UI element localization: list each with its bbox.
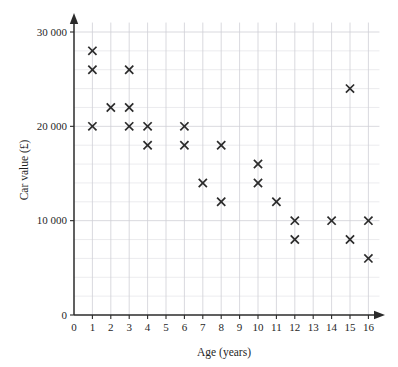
x-axis-arrowhead: [374, 311, 385, 319]
x-tick-label: 5: [163, 321, 169, 333]
x-tick-label: 8: [218, 321, 224, 333]
x-tick-label: 10: [253, 321, 265, 333]
x-tick-label: 1: [90, 321, 96, 333]
y-tick-label: 10 000: [37, 214, 68, 226]
x-tick-label: 7: [200, 321, 206, 333]
x-tick-label: 3: [126, 321, 132, 333]
y-tick-label: 0: [62, 309, 68, 321]
x-tick-label: 4: [145, 321, 151, 333]
plot-canvas: 012345678910111213141516 010 00020 00030…: [0, 0, 398, 367]
minor-gridlines: [74, 51, 379, 296]
x-axis-title: Age (years): [197, 346, 251, 359]
x-tick-label: 12: [289, 321, 300, 333]
x-tick-label: 6: [182, 321, 188, 333]
y-tick-label: 30 000: [37, 26, 68, 38]
x-tick-label: 0: [71, 321, 77, 333]
x-tick-label: 14: [326, 321, 338, 333]
data-point-markers: [88, 47, 372, 263]
tick-marks: [70, 32, 368, 319]
major-gridlines: [74, 23, 379, 315]
axes: [70, 13, 385, 319]
y-axis-tick-labels: 010 00020 00030 000: [37, 26, 68, 321]
x-tick-label: 2: [108, 321, 114, 333]
scatter-plot-figure: 012345678910111213141516 010 00020 00030…: [0, 0, 398, 367]
x-tick-label: 11: [271, 321, 282, 333]
x-tick-label: 16: [363, 321, 375, 333]
x-tick-label: 9: [237, 321, 243, 333]
y-axis-title: Car value (£): [18, 139, 31, 200]
x-axis-tick-labels: 012345678910111213141516: [71, 321, 374, 333]
y-tick-label: 20 000: [37, 120, 68, 132]
x-tick-label: 15: [345, 321, 357, 333]
y-axis-arrowhead: [70, 13, 78, 24]
x-tick-label: 13: [308, 321, 320, 333]
